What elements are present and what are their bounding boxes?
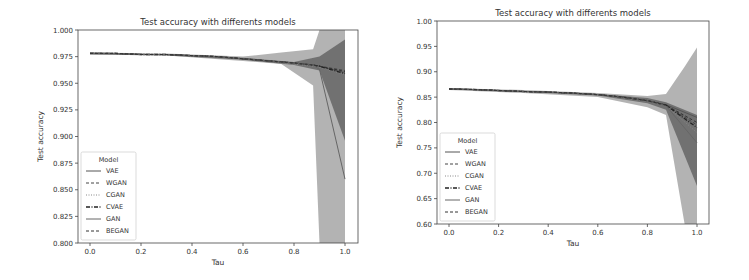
- x-tick-label: 0.4: [543, 229, 555, 237]
- x-tick-label: 0.8: [642, 229, 653, 237]
- y-tick-label: 0.95: [416, 43, 432, 51]
- legend-label-cgan: CGAN: [465, 172, 484, 180]
- y-tick-label: 0.60: [416, 221, 432, 229]
- chart-title: Test accuracy with differents models: [494, 8, 651, 18]
- legend-label-wgan: WGAN: [465, 160, 486, 168]
- legend-label-began: BEGAN: [465, 208, 488, 216]
- y-tick-label: 0.75: [416, 144, 432, 152]
- x-tick-label: 1.0: [691, 229, 702, 237]
- y-axis-label: Test accuracy: [395, 96, 404, 149]
- y-tick-label: 1.00: [416, 18, 432, 26]
- y-tick-label: 0.85: [416, 94, 432, 102]
- x-tick-label: 0.6: [592, 229, 604, 237]
- x-tick-label: 0.0: [443, 229, 454, 237]
- legend-label-gan: GAN: [465, 196, 479, 204]
- right-accuracy-chart: 0.00.20.40.60.81.00.600.650.700.750.800.…: [0, 0, 749, 280]
- y-tick-label: 0.65: [416, 195, 432, 203]
- y-tick-label: 0.70: [416, 170, 432, 178]
- x-tick-label: 0.2: [493, 229, 504, 237]
- legend-title: Model: [458, 137, 478, 145]
- y-tick-label: 0.90: [416, 68, 432, 76]
- x-axis-label: Tau: [566, 239, 580, 248]
- legend-label-cvae: CVAE: [465, 184, 482, 192]
- y-tick-label: 0.80: [416, 119, 432, 127]
- figure-root: 0.00.20.40.60.81.00.8000.8250.8500.8750.…: [0, 0, 749, 280]
- legend-label-vae: VAE: [465, 148, 478, 156]
- legend: ModelVAEWGANCGANCVAEGANBEGAN: [440, 133, 495, 221]
